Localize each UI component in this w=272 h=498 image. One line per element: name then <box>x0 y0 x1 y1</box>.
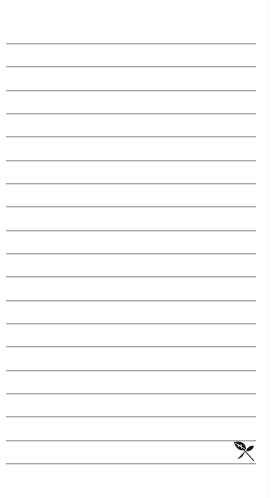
ruled-line <box>6 300 256 302</box>
lined-paper <box>0 0 272 498</box>
ruled-line <box>6 206 256 208</box>
page-edge <box>267 0 268 498</box>
ruled-line <box>6 393 256 395</box>
ruled-line <box>6 323 256 325</box>
ruled-line <box>6 346 256 348</box>
leaf-sprig-icon <box>232 439 256 463</box>
ruled-line <box>6 463 256 465</box>
ruled-line <box>6 230 256 232</box>
ruled-line <box>6 90 256 92</box>
ruled-line <box>6 113 256 115</box>
ruled-line <box>6 160 256 162</box>
ruled-line <box>6 440 256 442</box>
ruled-line <box>6 136 256 138</box>
ruled-line <box>6 370 256 372</box>
ruled-line <box>6 183 256 185</box>
ruled-line <box>6 253 256 255</box>
ruled-line <box>6 276 256 278</box>
ruled-line <box>6 43 256 45</box>
ruled-line <box>6 66 256 68</box>
ruled-line <box>6 416 256 418</box>
